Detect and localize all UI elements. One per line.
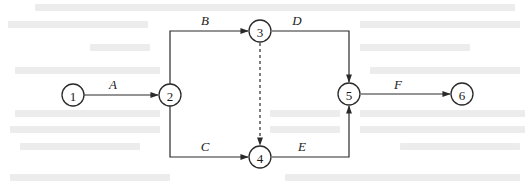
node-label-1: 1 <box>70 89 77 104</box>
node-4: 4 <box>249 146 271 168</box>
activity-e: E <box>272 106 349 157</box>
node-label-3: 3 <box>257 25 264 40</box>
activity-b: B <box>170 13 248 84</box>
node-2: 2 <box>159 84 181 106</box>
activity-label-c: C <box>201 139 210 154</box>
node-label-5: 5 <box>346 88 353 103</box>
activity-a: A <box>84 77 158 95</box>
node-6: 6 <box>451 83 473 105</box>
activity-label-b: B <box>201 13 209 28</box>
node-3: 3 <box>249 20 271 42</box>
activity-label-f: F <box>393 77 403 92</box>
node-1: 1 <box>62 84 84 106</box>
node-label-6: 6 <box>459 88 466 103</box>
node-label-2: 2 <box>167 89 174 104</box>
activity-f: F <box>361 77 450 94</box>
network-diagram: A B C D E F 1 2 3 4 <box>0 0 529 184</box>
activity-c: C <box>170 106 248 157</box>
node-label-4: 4 <box>257 151 264 166</box>
activity-label-a: A <box>108 77 117 92</box>
activity-label-e: E <box>297 139 306 154</box>
activity-label-d: D <box>291 13 302 28</box>
node-5: 5 <box>338 83 360 105</box>
activity-d: D <box>272 13 349 82</box>
